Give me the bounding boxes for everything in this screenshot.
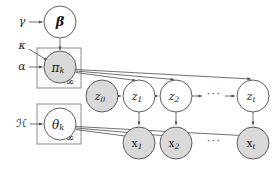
- node-pi-k[interactable]: πk: [44, 51, 76, 83]
- node-xt[interactable]: xt: [237, 127, 269, 159]
- hyperparameter-gamma: γ: [19, 15, 26, 28]
- z-chain-ellipsis: ···: [207, 88, 222, 101]
- edge-pi-to-zt: [76, 70, 251, 80]
- node-z1[interactable]: z1: [123, 80, 155, 112]
- node-x1[interactable]: x1: [123, 127, 155, 159]
- node-zt[interactable]: zt: [237, 80, 269, 112]
- node-beta-label: β: [55, 14, 65, 29]
- graph-canvas: ∞ ∞: [0, 0, 280, 170]
- plate-diagram: ∞ ∞: [0, 0, 280, 170]
- hyperparameter-alpha: α: [18, 60, 26, 73]
- hyperparameter-kappa: κ: [17, 39, 26, 52]
- x-sequence-ellipsis: ···: [207, 135, 222, 148]
- node-z0[interactable]: z0: [86, 80, 118, 112]
- ellipses-layer: ··· ···: [207, 88, 222, 148]
- node-beta[interactable]: β: [44, 6, 76, 38]
- node-theta-k[interactable]: θk: [44, 108, 76, 140]
- node-x2[interactable]: x2: [160, 127, 192, 159]
- hyperparameter-base-measure: ℋ: [16, 117, 27, 130]
- hyperparameters-layer: γ κ α ℋ: [16, 15, 27, 130]
- node-z2[interactable]: z2: [160, 80, 192, 112]
